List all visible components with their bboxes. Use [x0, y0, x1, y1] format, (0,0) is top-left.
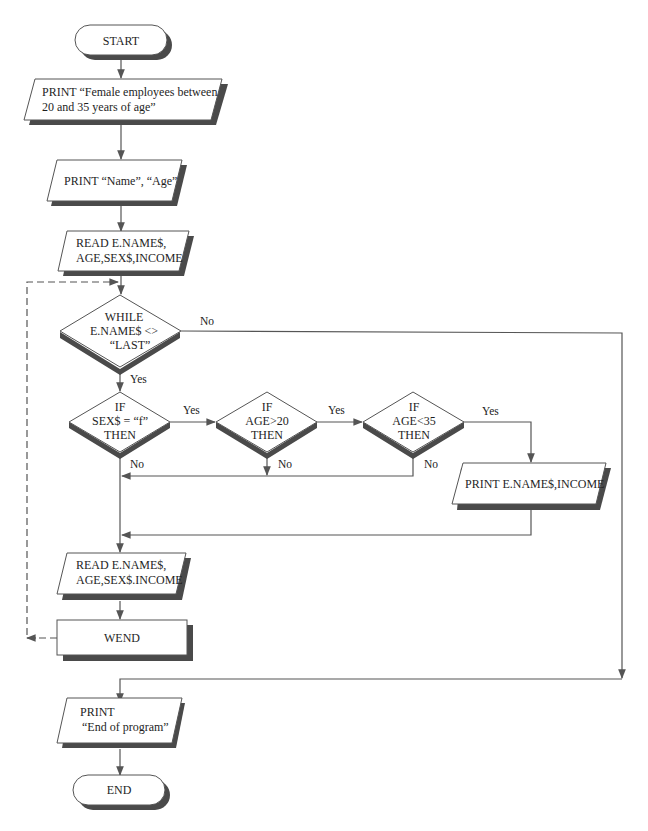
label-sex-yes: Yes — [183, 404, 200, 416]
node-if-age-gt: IF AGE>20 THEN — [216, 392, 317, 459]
node-if-age-gt-line-1: IF — [262, 400, 273, 414]
edge-into-print-end — [120, 679, 622, 702]
node-if-age-lt-line-1: IF — [409, 400, 420, 414]
node-print-title: PRINT “Female employees between 20 and 3… — [24, 79, 228, 125]
node-print-end-line-1: PRINT — [80, 705, 115, 719]
node-read-1-line-2: AGE,SEX$,INCOME — [76, 251, 183, 265]
label-age-gt-yes: Yes — [328, 404, 345, 416]
node-while: WHILE E.NAME$ <> “LAST” — [60, 295, 181, 375]
label-sex-no: No — [130, 458, 144, 470]
node-if-age-gt-line-3: THEN — [251, 428, 283, 442]
label-age-gt-no: No — [278, 458, 292, 470]
label-while-no: No — [200, 315, 214, 327]
node-while-line-3: “LAST” — [110, 338, 151, 352]
node-while-line-2: E.NAME$ <> — [90, 324, 158, 338]
node-if-sex: IF SEX$ = “f” THEN — [69, 392, 170, 459]
edge-age-lt-yes — [463, 422, 531, 462]
node-if-sex-line-2: SEX$ = “f” — [92, 414, 148, 428]
node-read-2: READ E.NAME$, AGE,SEX$.INCOME — [57, 553, 191, 600]
node-print-row: PRINT E.NAME$,INCOME — [452, 463, 611, 510]
node-while-line-1: WHILE — [105, 310, 144, 324]
label-while-yes: Yes — [130, 373, 147, 385]
node-read-2-line-2: AGE,SEX$.INCOME — [76, 573, 183, 587]
node-if-sex-line-3: THEN — [104, 428, 136, 442]
node-end: END — [73, 775, 170, 810]
node-start: START — [75, 25, 172, 60]
node-print-title-line-1: PRINT “Female employees between — [42, 85, 217, 99]
flowchart: START PRINT “Female employees between 20… — [0, 0, 648, 831]
node-if-age-lt: IF AGE<35 THEN — [363, 392, 464, 459]
edge-labels: No Yes Yes No Yes No Yes No — [130, 315, 499, 470]
node-print-title-line-2: 20 and 35 years of age” — [42, 100, 156, 114]
node-wend: WEND — [57, 620, 193, 661]
node-print-end: PRINT “End of program” — [57, 698, 185, 748]
node-print-header: PRINT “Name”, “Age” — [47, 160, 187, 206]
label-age-lt-no: No — [424, 458, 438, 470]
node-if-age-lt-line-3: THEN — [398, 428, 430, 442]
node-if-sex-line-1: IF — [115, 400, 126, 414]
node-print-header-label: PRINT “Name”, “Age” — [64, 174, 177, 188]
node-wend-label: WEND — [104, 631, 140, 645]
node-print-row-label: PRINT E.NAME$,INCOME — [465, 477, 604, 491]
node-end-label: END — [107, 783, 132, 797]
node-print-end-line-2: “End of program” — [82, 720, 169, 734]
node-read-1: READ E.NAME$, AGE,SEX$,INCOME — [58, 231, 194, 276]
node-if-age-lt-line-2: AGE<35 — [392, 414, 435, 428]
node-if-age-gt-line-2: AGE>20 — [245, 414, 288, 428]
node-read-2-line-1: READ E.NAME$, — [76, 558, 166, 572]
node-read-1-line-1: READ E.NAME$, — [76, 236, 166, 250]
label-age-lt-yes: Yes — [482, 405, 499, 417]
edge-print-row-down — [122, 510, 531, 535]
node-start-label: START — [103, 34, 140, 48]
